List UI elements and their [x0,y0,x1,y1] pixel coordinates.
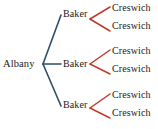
node-creswich-5: Creswich [112,89,151,100]
branch-baker2-to-creswich-1 [90,50,110,64]
node-creswich-1: Creswich [112,2,151,13]
branch-baker3-to-creswich-2 [90,108,110,118]
node-creswich-2: Creswich [112,20,151,31]
node-baker-1: Baker [63,8,87,19]
node-creswich-3: Creswich [112,45,151,56]
node-baker-2: Baker [63,58,87,69]
level1-branch-group [43,15,61,106]
node-creswich-4: Creswich [112,63,151,74]
branch-albany-to-baker-1 [43,15,61,64]
level2-branch-group [90,7,110,118]
branch-baker1-to-creswich-1 [90,7,110,19]
branch-albany-to-baker-3 [43,64,61,106]
branch-baker2-to-creswich-2 [90,64,110,74]
node-baker-3: Baker [63,99,87,110]
node-creswich-6: Creswich [112,107,151,118]
branch-baker3-to-creswich-1 [90,94,110,108]
tree-diagram: Albany Baker Baker Baker Creswich Creswi… [0,0,158,129]
node-albany-root: Albany [3,58,35,69]
branch-baker1-to-creswich-2 [90,19,110,31]
